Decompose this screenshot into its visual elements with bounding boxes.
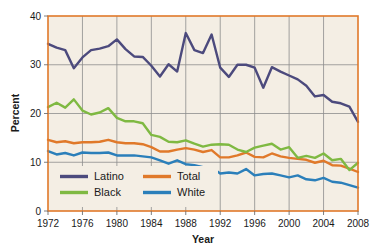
x-tick-label: 2004 (312, 218, 335, 229)
legend-label-total: Total (177, 170, 200, 182)
legend-label-latino: Latino (94, 170, 124, 182)
y-tick-label: 0 (35, 206, 41, 217)
line-chart: LatinoBlackTotalWhite 010203040 19721976… (0, 0, 379, 248)
x-tick-label: 1996 (244, 218, 267, 229)
legend-label-white: White (177, 186, 205, 198)
y-tick-label: 30 (30, 59, 42, 70)
y-axis-title: Percent (9, 93, 21, 132)
x-tick-label: 1988 (175, 218, 198, 229)
x-tick-label: 1976 (71, 218, 94, 229)
x-axis-ticks: 1972197619801984198819921996200020042008 (37, 211, 370, 229)
chart-legend: LatinoBlackTotalWhite (52, 166, 218, 207)
legend-label-black: Black (94, 186, 121, 198)
x-tick-label: 2000 (278, 218, 301, 229)
x-tick-label: 1972 (37, 218, 60, 229)
chart-container: LatinoBlackTotalWhite 010203040 19721976… (0, 0, 379, 248)
x-tick-label: 1980 (106, 218, 129, 229)
x-tick-label: 1984 (140, 218, 163, 229)
y-tick-label: 20 (30, 108, 42, 119)
y-tick-label: 40 (30, 11, 42, 22)
x-tick-label: 2008 (347, 218, 370, 229)
x-tick-label: 1992 (209, 218, 232, 229)
y-tick-label: 10 (30, 157, 42, 168)
x-axis-title: Year (192, 233, 214, 245)
y-axis-ticks: 010203040 (30, 11, 48, 217)
